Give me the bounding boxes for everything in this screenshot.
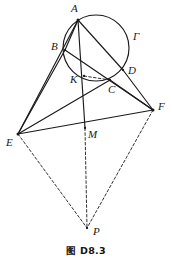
point-label-k: K — [70, 74, 77, 85]
point-label-a: A — [71, 3, 78, 14]
vertex-dot-b — [64, 49, 66, 51]
point-label-m: M — [88, 129, 97, 140]
segment-M-P-dashed — [85, 128, 87, 228]
vertex-dot-p — [86, 227, 88, 229]
point-label-b: B — [51, 41, 58, 52]
geometry-figure: ABΓDKCFEMP 图 D8.3 — [0, 0, 172, 259]
vertex-dot-c — [109, 79, 111, 81]
point-label-d: D — [128, 65, 136, 76]
vertex-dot-a — [77, 19, 80, 22]
point-label-gamma: Γ — [133, 31, 139, 42]
segment-A-M — [78, 20, 85, 128]
segment-A-D — [78, 20, 123, 70]
point-label-c: C — [108, 84, 115, 95]
point-label-p: P — [93, 226, 100, 237]
vertex-dot-k — [83, 75, 85, 77]
point-label-e: E — [6, 137, 13, 148]
vertex-dot-e — [17, 133, 20, 136]
vertex-dot-m — [84, 127, 86, 129]
figure-caption: 图 D8.3 — [0, 243, 172, 257]
vertex-dots-group — [17, 19, 155, 230]
segment-E-P-dashed — [18, 134, 87, 228]
geometry-canvas — [0, 0, 172, 259]
segment-C-F — [110, 80, 153, 110]
vertex-dot-f — [152, 109, 155, 112]
segment-B-E — [18, 50, 65, 134]
vertex-dot-d — [122, 69, 124, 71]
point-label-f: F — [158, 101, 165, 112]
segment-D-F — [123, 70, 153, 110]
